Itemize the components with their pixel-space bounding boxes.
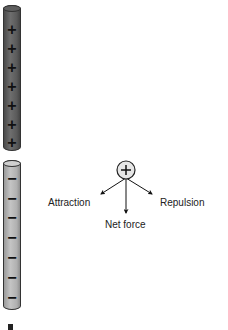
force-diagram [0,0,228,330]
repulsion-arrow [126,178,152,194]
repulsion-label: Repulsion [160,197,204,208]
attraction-label: Attraction [48,197,90,208]
partial-mark [8,324,13,330]
net-force-label: Net force [105,219,146,230]
attraction-arrow [101,178,126,194]
